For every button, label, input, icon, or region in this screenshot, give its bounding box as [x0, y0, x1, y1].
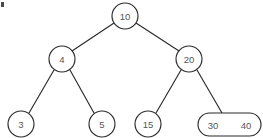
binary-search-tree-graphic: 1042035153040 — [0, 0, 263, 138]
tree-edge-n20-to-15 — [156, 70, 181, 113]
tree-edge-root-to-4 — [72, 23, 114, 51]
tree-node-5[interactable]: 5 — [89, 111, 115, 137]
node-label-20: 20 — [184, 54, 195, 65]
tree-edge-n20-to-3040 — [197, 70, 222, 113]
node-label-30: 30 — [208, 120, 219, 131]
node-label-40: 40 — [241, 120, 252, 131]
tree-node-4[interactable]: 4 — [49, 46, 75, 72]
node-label-10: 10 — [120, 11, 131, 22]
tree-node-10[interactable]: 10 — [112, 3, 138, 29]
tree-node-pill-30-40[interactable]: 3040 — [198, 113, 261, 136]
tree-edge-root-to-20 — [136, 23, 179, 51]
node-label-5: 5 — [99, 119, 104, 130]
tree-edge-n4-to-3 — [29, 70, 54, 113]
node-label-4: 4 — [59, 54, 64, 65]
node-label-15: 15 — [143, 119, 154, 130]
node-label-3: 3 — [18, 119, 23, 130]
tree-node-15[interactable]: 15 — [135, 111, 161, 137]
tree-edge-n4-to-5 — [70, 70, 94, 113]
tree-node-20[interactable]: 20 — [176, 46, 202, 72]
tree-diagram-canvas: 1042035153040 — [0, 0, 263, 138]
tree-node-3[interactable]: 3 — [8, 111, 34, 137]
nodes-group: 1042035153040 — [8, 3, 261, 137]
